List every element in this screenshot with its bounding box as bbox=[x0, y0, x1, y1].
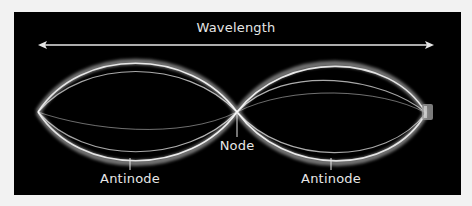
wavelength-label: Wavelength bbox=[196, 20, 275, 35]
string-end-clamp bbox=[422, 104, 433, 120]
wavelength-arrow bbox=[38, 41, 434, 49]
node-label: Node bbox=[220, 138, 255, 153]
antinode-left-label: Antinode bbox=[100, 171, 160, 186]
antinode-right-label: Antinode bbox=[301, 171, 361, 186]
